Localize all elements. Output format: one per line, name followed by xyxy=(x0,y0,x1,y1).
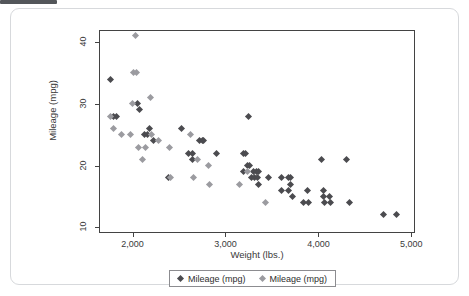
data-point xyxy=(132,32,139,39)
y-axis-tick xyxy=(95,42,100,43)
data-point xyxy=(107,76,114,83)
data-point xyxy=(135,106,142,113)
data-point xyxy=(139,156,146,163)
data-point xyxy=(318,156,325,163)
y-axis-tick-label: 40 xyxy=(79,31,88,53)
x-axis-tick-label: 4,000 xyxy=(297,239,339,249)
y-axis-tick xyxy=(95,166,100,167)
data-point xyxy=(178,125,185,132)
data-point xyxy=(287,180,294,187)
x-axis-tick xyxy=(411,232,412,237)
data-point xyxy=(346,199,353,206)
legend-item[interactable]: Mileage (mpg) xyxy=(178,274,246,284)
scatter-chart: 10203040 2,0003,0004,0005,000 Mileage (m… xyxy=(11,9,469,296)
data-point xyxy=(327,199,334,206)
data-point xyxy=(147,94,154,101)
plot-area: 10203040 2,0003,0004,0005,000 xyxy=(99,30,415,233)
data-point xyxy=(190,174,197,181)
legend-item-label: Mileage (mpg) xyxy=(188,274,246,284)
data-point xyxy=(142,143,149,150)
legend-item-label: Mileage (mpg) xyxy=(270,274,328,284)
y-axis-tick xyxy=(95,104,100,105)
data-point xyxy=(305,199,312,206)
data-point xyxy=(289,193,296,200)
x-axis-tick-label: 2,000 xyxy=(112,239,154,249)
data-point xyxy=(262,199,269,206)
y-axis-tick-label: 30 xyxy=(79,92,88,114)
data-point xyxy=(166,143,173,150)
data-point xyxy=(278,174,285,181)
data-point xyxy=(304,187,311,194)
data-point xyxy=(393,211,400,218)
screenshot-root: 10203040 2,0003,0004,0005,000 Mileage (m… xyxy=(0,0,469,296)
legend-item[interactable]: Mileage (mpg) xyxy=(260,274,328,284)
data-point xyxy=(213,150,220,157)
data-point xyxy=(206,180,213,187)
y-axis-tick-label: 10 xyxy=(79,216,88,238)
chart-card: 10203040 2,0003,0004,0005,000 Mileage (m… xyxy=(10,8,459,285)
data-point xyxy=(118,131,125,138)
data-point xyxy=(200,137,207,144)
plot-inner xyxy=(100,31,414,232)
data-point xyxy=(110,125,117,132)
data-point xyxy=(187,131,194,138)
data-point xyxy=(127,131,134,138)
x-axis-tick xyxy=(318,232,319,237)
y-axis-title: Mileage (mpg) xyxy=(47,51,58,171)
data-point xyxy=(343,156,350,163)
data-point xyxy=(242,150,249,157)
x-axis-title: Weight (lbs.) xyxy=(99,249,415,260)
chart-legend[interactable]: Mileage (mpg) Mileage (mpg) xyxy=(169,270,336,287)
y-axis-tick xyxy=(95,227,100,228)
x-axis-tick xyxy=(225,232,226,237)
data-point xyxy=(380,211,387,218)
x-axis-tick xyxy=(133,232,134,237)
data-point xyxy=(194,156,201,163)
data-point xyxy=(236,180,243,187)
data-point xyxy=(155,137,162,144)
data-point xyxy=(245,113,252,120)
legend-marker-icon xyxy=(177,275,184,282)
clipped-toolbar-edge xyxy=(0,0,57,4)
data-point xyxy=(265,174,272,181)
x-axis-tick-label: 3,000 xyxy=(204,239,246,249)
data-point xyxy=(254,180,261,187)
data-point xyxy=(205,162,212,169)
legend-marker-icon xyxy=(258,275,265,282)
x-axis-tick-label: 5,000 xyxy=(390,239,432,249)
y-axis-tick-label: 20 xyxy=(79,154,88,176)
